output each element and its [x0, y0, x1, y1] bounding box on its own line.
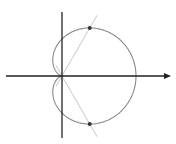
cardioid-diagram — [0, 0, 176, 144]
marked-point-lower — [88, 122, 92, 126]
x-axis-arrowhead-icon — [164, 73, 171, 79]
marked-point-upper — [88, 26, 92, 30]
